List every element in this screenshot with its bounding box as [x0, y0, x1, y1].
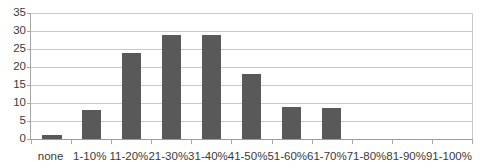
x-tick-label: 71-80% — [347, 147, 387, 165]
bar-series — [32, 13, 471, 139]
x-tick-label: 31-40% — [188, 147, 228, 165]
x-tick-mark — [432, 139, 472, 144]
bar-slot — [311, 13, 351, 139]
y-tick-mark — [27, 13, 31, 14]
x-tick-mark — [71, 139, 111, 144]
y-tick-label: 35 — [13, 7, 26, 19]
x-tick-mark — [151, 139, 191, 144]
x-tick-label: 1-10% — [70, 147, 109, 165]
y-tick-mark — [27, 85, 31, 86]
y-tick-label: 15 — [13, 79, 26, 91]
x-tick-label: 81-90% — [386, 147, 426, 165]
y-tick-mark — [27, 49, 31, 50]
x-tick-mark — [191, 139, 231, 144]
y-tick-label: 25 — [13, 43, 26, 55]
bar — [322, 108, 341, 139]
x-tick-mark — [392, 139, 432, 144]
bar — [162, 35, 181, 139]
bar-slot — [391, 13, 431, 139]
y-tick-label: 5 — [20, 115, 26, 127]
x-tick-mark — [272, 139, 312, 144]
bar — [82, 110, 101, 139]
x-tick-label: 41-50% — [228, 147, 268, 165]
x-tick-label: 91-100% — [426, 147, 472, 165]
x-tick-label: 61-70% — [307, 147, 347, 165]
bar-slot — [271, 13, 311, 139]
x-tick-label: none — [31, 147, 70, 165]
bar-slot — [232, 13, 272, 139]
y-tick-mark — [27, 121, 31, 122]
y-tick-label: 10 — [13, 97, 26, 109]
bar-slot — [72, 13, 112, 139]
x-tick-label: 51-60% — [267, 147, 307, 165]
plot-area — [30, 13, 473, 139]
bar — [282, 107, 301, 139]
y-tick-mark — [27, 67, 31, 68]
x-axis-tick-marks — [31, 139, 472, 144]
bar — [242, 74, 261, 139]
x-tick-mark — [352, 139, 392, 144]
y-tick-label: 20 — [13, 61, 26, 73]
y-axis-tick-labels: 05101520253035 — [0, 13, 26, 139]
bar — [202, 35, 221, 139]
bar-slot — [152, 13, 192, 139]
x-axis-tick-labels: none1-10%11-20%21-30%31-40%41-50%51-60%6… — [31, 147, 472, 165]
y-tick-label: 0 — [20, 133, 26, 145]
y-tick-label: 30 — [13, 25, 26, 37]
x-tick-mark — [111, 139, 151, 144]
bar-chart: 05101520253035 none1-10%11-20%21-30%31-4… — [0, 0, 480, 168]
x-tick-mark — [231, 139, 271, 144]
bar — [122, 53, 141, 139]
x-tick-label: 11-20% — [109, 147, 148, 165]
bar-slot — [32, 13, 72, 139]
x-tick-mark — [31, 139, 71, 144]
y-tick-mark — [27, 103, 31, 104]
bar-slot — [351, 13, 391, 139]
x-tick-label: 21-30% — [148, 147, 188, 165]
bar-slot — [112, 13, 152, 139]
x-tick-mark — [312, 139, 352, 144]
bar-slot — [192, 13, 232, 139]
y-tick-mark — [27, 31, 31, 32]
bar-slot — [431, 13, 471, 139]
